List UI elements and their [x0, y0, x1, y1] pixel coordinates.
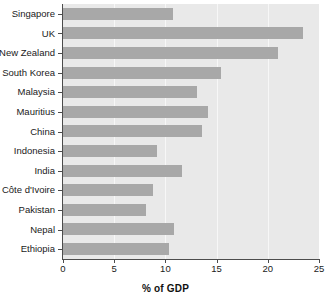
bar-row [63, 43, 319, 63]
y-tick [58, 132, 62, 133]
bar-row [63, 122, 319, 142]
category-label-india: India [34, 166, 55, 176]
x-tick-label: 10 [160, 264, 171, 274]
x-tick-label: 0 [60, 264, 65, 274]
x-tick-label: 15 [211, 264, 222, 274]
category-row: China [0, 122, 59, 142]
y-tick [58, 33, 62, 34]
bar-malaysia [63, 86, 197, 98]
bar-row [63, 200, 319, 220]
bar-row [63, 24, 319, 44]
category-row: South Korea [0, 63, 59, 83]
category-label-singapore: Singapore [12, 9, 55, 19]
bar-row [63, 141, 319, 161]
bars-container [63, 4, 319, 259]
category-row: New Zealand [0, 43, 59, 63]
bar-row [63, 161, 319, 181]
bar-ethiopia [63, 243, 169, 255]
x-axis-ticks: 0510152025 [0, 259, 331, 279]
category-label-mauritius: Mauritius [16, 107, 55, 117]
category-label-south-korea: South Korea [2, 68, 55, 78]
y-tick [58, 73, 62, 74]
category-label-ethiopia: Ethiopia [21, 244, 55, 254]
bar-nepal [63, 223, 174, 235]
category-row: UK [0, 24, 59, 44]
category-label-new-zealand: New Zealand [0, 48, 55, 58]
y-tick [58, 171, 62, 172]
category-row: Indonesia [0, 141, 59, 161]
bar-mauritius [63, 106, 208, 118]
bar-row [63, 239, 319, 259]
category-label-malaysia: Malaysia [18, 87, 56, 97]
bar-singapore [63, 8, 173, 20]
x-tick-label: 20 [263, 264, 274, 274]
bar-row [63, 180, 319, 200]
category-label-pakistan: Pakistan [19, 205, 55, 215]
bar-south-korea [63, 67, 221, 79]
bar-row [63, 102, 319, 122]
y-tick [58, 92, 62, 93]
category-row: India [0, 161, 59, 181]
y-tick [58, 151, 62, 152]
y-tick [58, 230, 62, 231]
x-tick-label: 5 [112, 264, 117, 274]
category-row: Malaysia [0, 82, 59, 102]
category-label-uk: UK [42, 29, 55, 39]
category-label-nepal: Nepal [30, 225, 55, 235]
x-tick-label: 25 [314, 264, 325, 274]
bar-row [63, 4, 319, 24]
category-label-china: China [30, 127, 55, 137]
category-row: Nepal [0, 220, 59, 240]
category-row: Pakistan [0, 200, 59, 220]
bar-china [63, 125, 202, 137]
bar-row [63, 220, 319, 240]
bar-row [63, 82, 319, 102]
bar-pakistan [63, 204, 146, 216]
bar-indonesia [63, 145, 157, 157]
category-row: Côte d'Ivoire [0, 180, 59, 200]
y-tick [58, 210, 62, 211]
bar-cote-divoire [63, 184, 153, 196]
bar-chart: Singapore UK New Zealand South Korea Mal… [0, 0, 331, 303]
category-row: Singapore [0, 4, 59, 24]
category-row: Mauritius [0, 102, 59, 122]
x-axis-title: % of GDP [0, 283, 331, 294]
category-row: Ethiopia [0, 239, 59, 259]
bar-uk [63, 27, 303, 39]
bar-new-zealand [63, 47, 278, 59]
y-tick [58, 112, 62, 113]
y-tick [58, 190, 62, 191]
bar-row [63, 63, 319, 83]
bar-india [63, 165, 182, 177]
category-label-cote-divoire: Côte d'Ivoire [2, 185, 55, 195]
y-tick [58, 53, 62, 54]
y-tick [58, 14, 62, 15]
category-label-indonesia: Indonesia [14, 146, 55, 156]
y-tick [58, 249, 62, 250]
category-axis-labels: Singapore UK New Zealand South Korea Mal… [0, 4, 59, 259]
